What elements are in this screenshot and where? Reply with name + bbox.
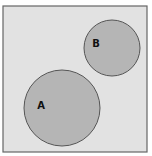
set-b-label: B [92,38,100,49]
set-a-label: A [37,100,45,111]
set-a-circle [24,70,100,146]
venn-diagram: A B [0,0,152,156]
